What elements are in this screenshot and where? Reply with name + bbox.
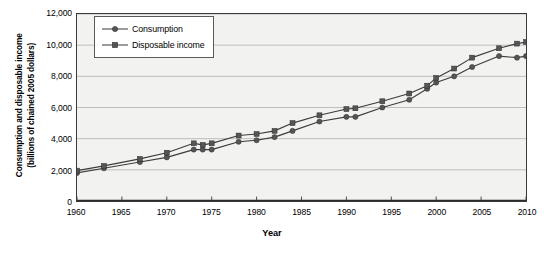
chart-legend: Consumption Disposable income [94, 16, 214, 58]
data-point-consumption [470, 64, 475, 69]
data-point-disposable-income [425, 83, 430, 88]
legend-item-disposable-income: Disposable income [101, 37, 213, 53]
data-point-disposable-income [497, 46, 502, 51]
y-tick-label: 10,000 [28, 40, 72, 50]
data-point-consumption [164, 155, 169, 160]
y-tick-label: 2,000 [28, 166, 72, 176]
data-point-consumption [496, 54, 501, 59]
data-point-consumption [407, 97, 412, 102]
x-tick-label: 2000 [417, 207, 457, 217]
x-axis-tick-labels: 1960196519701975198019851990199520002005… [0, 207, 544, 223]
data-point-disposable-income [344, 107, 349, 112]
data-point-disposable-income [272, 128, 277, 133]
data-point-disposable-income [77, 168, 79, 173]
y-tick-label: 12,000 [28, 8, 72, 18]
data-point-consumption [290, 128, 295, 133]
data-point-disposable-income [164, 150, 169, 155]
data-point-consumption [434, 80, 439, 85]
x-axis-title: Year [0, 228, 544, 238]
legend-marker-circle-icon [101, 23, 129, 35]
data-point-disposable-income [452, 66, 457, 71]
data-point-disposable-income [137, 156, 142, 161]
data-point-disposable-income [407, 91, 412, 96]
y-tick-label: 6,000 [28, 103, 72, 113]
x-tick-label: 1990 [327, 207, 367, 217]
data-point-consumption [254, 138, 259, 143]
data-point-disposable-income [209, 141, 214, 146]
x-tick-label: 1960 [56, 207, 96, 217]
data-point-disposable-income [434, 75, 439, 80]
data-point-disposable-income [470, 55, 475, 60]
legend-item-consumption: Consumption [101, 21, 213, 37]
data-point-consumption [191, 147, 196, 152]
data-point-disposable-income [254, 132, 259, 137]
legend-marker-square-icon [101, 39, 129, 51]
data-point-disposable-income [380, 99, 385, 104]
data-point-disposable-income [515, 41, 520, 46]
data-point-consumption [209, 147, 214, 152]
data-point-disposable-income [353, 106, 358, 111]
chart-container: Consumption and disposable income (billi… [0, 0, 544, 255]
data-point-disposable-income [200, 142, 205, 147]
x-tick-label: 1970 [146, 207, 186, 217]
data-point-disposable-income [191, 141, 196, 146]
data-point-consumption [353, 114, 358, 119]
x-axis-title-text: Year [262, 228, 281, 238]
x-tick-label: 1985 [282, 207, 322, 217]
y-tick-label: 8,000 [28, 71, 72, 81]
data-point-consumption [452, 74, 457, 79]
y-tick-label: 4,000 [28, 134, 72, 144]
data-point-consumption [344, 114, 349, 119]
x-tick-label: 1965 [101, 207, 141, 217]
x-tick-label: 1980 [236, 207, 276, 217]
y-axis-title-line1: Consumption and disposable income [14, 0, 25, 210]
data-point-consumption [514, 55, 519, 60]
legend-label-disposable-income: Disposable income [132, 40, 205, 50]
data-point-disposable-income [524, 40, 526, 45]
data-point-consumption [200, 147, 205, 152]
data-point-consumption [317, 119, 322, 124]
x-tick-label: 1995 [372, 207, 412, 217]
data-point-consumption [272, 135, 277, 140]
series-line-disposable-income [77, 42, 526, 171]
x-tick-label: 1975 [191, 207, 231, 217]
y-tick-label: 0 [28, 197, 72, 207]
data-point-consumption [380, 105, 385, 110]
data-point-disposable-income [317, 113, 322, 118]
data-point-disposable-income [290, 121, 295, 126]
x-tick-label: 2010 [507, 207, 544, 217]
data-point-consumption [236, 139, 241, 144]
x-tick-label: 2005 [462, 207, 502, 217]
data-point-consumption [523, 54, 526, 59]
data-point-disposable-income [236, 133, 241, 138]
series-line-consumption [77, 56, 526, 173]
data-point-disposable-income [101, 163, 106, 168]
legend-label-consumption: Consumption [132, 24, 183, 34]
